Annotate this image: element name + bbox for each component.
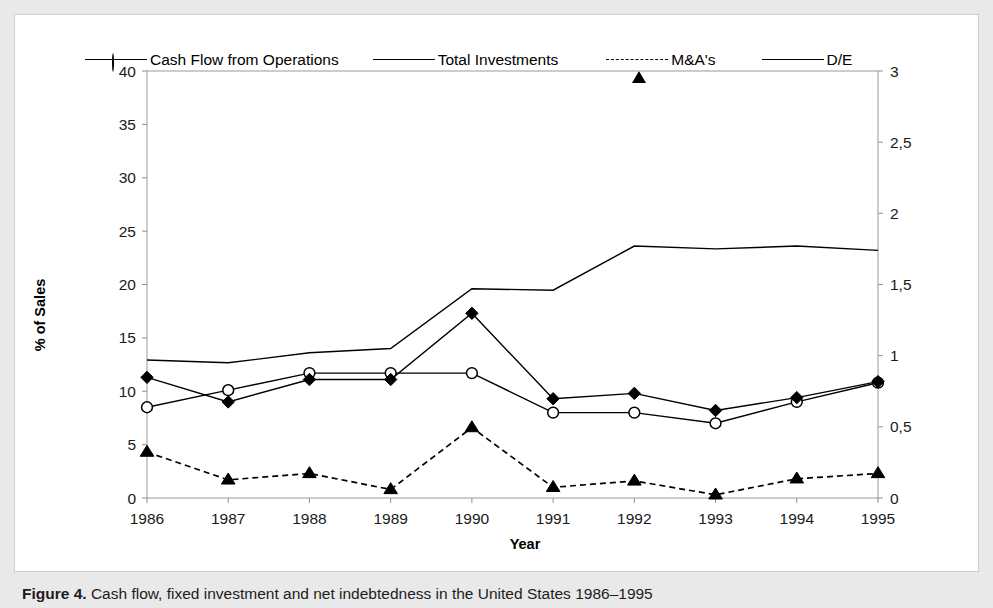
diamond-filled-marker-total-investments <box>222 396 234 408</box>
tick-labels-layer: 051015202530354000,511,522,5319861987198… <box>119 63 912 528</box>
triangle-filled-marker-m-a-s <box>140 445 154 456</box>
x-tick-label: 1995 <box>861 510 895 527</box>
y-tick-label-right: 2,5 <box>890 134 912 151</box>
circle-open-marker-cash-flow-from-operations <box>466 368 477 379</box>
y-tick-label-right: 3 <box>890 63 899 80</box>
y-tick-label-right: 0 <box>890 490 899 507</box>
y-axis-title-left: % of Sales <box>32 279 48 352</box>
y-tick-label-left: 40 <box>119 63 137 80</box>
y-tick-label-right: 1,5 <box>890 276 912 293</box>
y-tick-label-right: 2 <box>890 205 899 222</box>
figure-container: Cash Flow from Operations Total Investme… <box>0 0 993 608</box>
figure-caption: Figure 4. Cash flow, fixed investment an… <box>22 585 972 603</box>
x-tick-label: 1994 <box>780 510 815 527</box>
series-line-d-e <box>147 246 878 363</box>
circle-open-marker-cash-flow-from-operations <box>142 402 153 413</box>
y-tick-label-left: 25 <box>119 223 136 240</box>
y-tick-label-right: 1 <box>890 347 899 364</box>
x-tick-label: 1990 <box>455 510 490 527</box>
chart-panel: Cash Flow from Operations Total Investme… <box>14 14 979 572</box>
axes-layer <box>142 71 883 503</box>
y-tick-label-left: 15 <box>119 329 136 346</box>
triangle-filled-marker-m-a-s <box>790 472 804 483</box>
y-tick-label-left: 35 <box>119 116 136 133</box>
circle-open-marker-cash-flow-from-operations <box>223 385 234 396</box>
figure-caption-text: Cash flow, fixed investment and net inde… <box>91 585 653 602</box>
x-tick-label: 1991 <box>536 510 570 527</box>
series-line-m-a-s <box>147 428 878 495</box>
triangle-filled-marker-m-a-s <box>465 421 479 432</box>
plot-area: 051015202530354000,511,522,5319861987198… <box>15 15 980 573</box>
figure-caption-label: Figure 4. <box>22 585 87 602</box>
y-tick-label-left: 20 <box>119 276 137 293</box>
series-line-total-investments <box>147 313 878 410</box>
y-tick-label-left: 5 <box>127 436 136 453</box>
triangle-filled-marker-m-a-s <box>303 467 317 478</box>
circle-open-marker-cash-flow-from-operations <box>710 418 721 429</box>
circle-open-marker-cash-flow-from-operations <box>548 407 559 418</box>
plot-frame <box>147 71 878 498</box>
x-tick-label: 1988 <box>292 510 326 527</box>
series-layer <box>140 246 885 499</box>
triangle-filled-marker-m-a-s <box>546 481 560 492</box>
diamond-filled-marker-total-investments <box>141 371 153 383</box>
x-axis-title: Year <box>510 536 541 552</box>
triangle-filled-marker-m-a-s <box>628 474 642 485</box>
x-tick-label: 1989 <box>373 510 407 527</box>
y-tick-label-right: 0,5 <box>890 418 912 435</box>
y-tick-label-left: 0 <box>127 490 136 507</box>
y-tick-label-left: 10 <box>119 383 137 400</box>
triangle-filled-marker-m-a-s <box>871 467 885 478</box>
y-tick-label-left: 30 <box>119 169 137 186</box>
circle-open-marker-cash-flow-from-operations <box>629 407 640 418</box>
x-tick-label: 1986 <box>130 510 164 527</box>
series-line-cash-flow-from-operations <box>147 373 878 423</box>
diamond-filled-marker-total-investments <box>628 387 640 399</box>
x-tick-label: 1992 <box>617 510 651 527</box>
x-tick-label: 1987 <box>211 510 245 527</box>
x-tick-label: 1993 <box>698 510 732 527</box>
diamond-filled-marker-total-investments <box>709 404 721 416</box>
